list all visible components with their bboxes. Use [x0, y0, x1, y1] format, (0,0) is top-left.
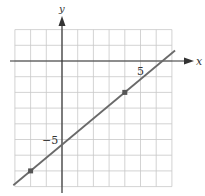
- grid: [15, 30, 172, 187]
- series-line: [13, 51, 175, 186]
- tick-label-x-5: 5: [137, 65, 144, 78]
- y-axis-arrow-icon: [59, 16, 66, 26]
- data-line: [13, 51, 175, 186]
- x-axis-arrow-icon: [184, 58, 194, 65]
- data-point-marker: [122, 90, 127, 95]
- x-axis-label: x: [196, 55, 203, 68]
- coordinate-plane: x y 5 −5: [0, 0, 205, 196]
- tick-label-y-neg5: −5: [42, 134, 58, 147]
- y-axis-label: y: [58, 3, 65, 14]
- data-point-marker: [28, 168, 33, 173]
